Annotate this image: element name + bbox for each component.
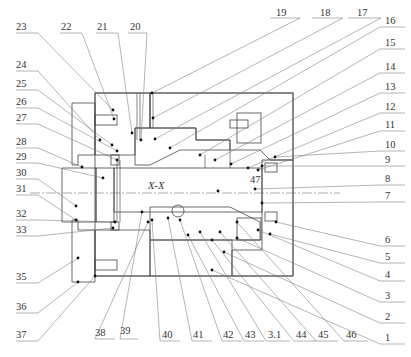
label-14: 14 (385, 61, 396, 72)
label-9: 9 (385, 154, 390, 165)
leader-dot-23 (112, 109, 115, 112)
leader-line-15 (200, 49, 380, 155)
leader-dot-47 (217, 190, 220, 193)
leader-dot-33 (112, 227, 115, 230)
label-28: 28 (16, 136, 27, 147)
leader-line-10 (275, 151, 380, 157)
leader-dot-40 (151, 219, 154, 222)
leader-line-7 (262, 202, 380, 203)
label-46: 46 (346, 329, 357, 340)
label-47: 47 (250, 174, 261, 185)
leader-dot-16 (169, 147, 172, 150)
label-22: 22 (61, 21, 72, 32)
left-flange (62, 103, 248, 282)
leader-dot-41 (167, 217, 170, 220)
leader-dot-25 (111, 144, 114, 147)
leader-line-3 (237, 238, 380, 302)
leader-line-30 (38, 179, 76, 206)
leader-line-42 (180, 220, 222, 341)
leader-line-33 (38, 228, 113, 236)
leader-line-2 (224, 252, 380, 323)
leader-line-12 (248, 113, 380, 168)
screw-right (230, 120, 248, 128)
leader-dot-4 (257, 229, 260, 232)
label-17: 17 (357, 7, 368, 18)
label-15: 15 (385, 37, 396, 48)
leader-dot-21 (131, 132, 134, 135)
label-37: 37 (16, 329, 27, 340)
leader-dot-1 (211, 269, 214, 272)
leader-dot-14 (214, 159, 217, 162)
label-43: 43 (245, 329, 256, 340)
leader-line-37 (38, 276, 95, 341)
leader-dot-15 (199, 154, 202, 157)
leader-dot-37 (94, 275, 97, 278)
housing-outline (95, 93, 293, 276)
section-caption: X-X (147, 180, 165, 191)
leader-dot-35 (77, 257, 80, 260)
label-6: 6 (385, 234, 390, 245)
label-31: 31 (16, 183, 27, 194)
shaft-bore (114, 168, 262, 212)
label-8: 8 (385, 173, 390, 184)
leader-line-6 (276, 222, 380, 246)
leader-dot-12 (247, 167, 250, 170)
leader-dot-24 (99, 139, 102, 142)
housing-lower (150, 240, 232, 276)
leader-line-19 (152, 18, 300, 93)
leader-dot-46 (236, 221, 239, 224)
leader-line-31 (38, 195, 76, 220)
label-20: 20 (130, 21, 141, 32)
leader-dot-5 (269, 233, 272, 236)
label-4: 4 (385, 269, 391, 280)
label-26: 26 (16, 96, 27, 107)
leader-line-36 (38, 282, 78, 313)
label-42: 42 (223, 329, 234, 340)
leader-line-40 (152, 220, 160, 341)
label-39: 39 (120, 325, 131, 336)
leader-dot-27 (116, 159, 119, 162)
label-35: 35 (16, 271, 27, 282)
leader-dot-6 (275, 221, 278, 224)
label-36: 36 (16, 301, 27, 312)
leader-dot-30 (75, 205, 78, 208)
leader-dot-7 (261, 202, 264, 205)
leader-dot-13 (230, 163, 233, 166)
leader-line-44 (212, 240, 294, 341)
label-27: 27 (16, 112, 27, 123)
label-24: 24 (16, 59, 27, 70)
label-38: 38 (95, 327, 106, 338)
leader-line-22 (82, 33, 114, 119)
leader-line-43 (188, 235, 244, 341)
leader-dot-45 (219, 231, 222, 234)
label-44: 44 (296, 329, 307, 340)
leader-dot-38 (147, 221, 150, 224)
label-16: 16 (385, 15, 396, 26)
label-10: 10 (385, 139, 396, 150)
part-labels: 2322212019181716151413121110987654321242… (16, 7, 396, 343)
label-32: 32 (16, 208, 27, 219)
leader-line-41 (168, 218, 192, 341)
leader-line-16 (170, 27, 380, 148)
label-5: 5 (385, 251, 390, 262)
label-33: 33 (16, 224, 27, 235)
leader-dot-3-1 (199, 231, 202, 234)
label-1: 1 (385, 332, 390, 343)
bolt-lower (95, 260, 117, 270)
leader-line-24 (38, 71, 100, 140)
leader-line-17 (155, 18, 381, 139)
leader-line-25 (38, 90, 112, 145)
label-45: 45 (318, 329, 329, 340)
label-11: 11 (385, 119, 395, 130)
leader-line-5 (270, 234, 380, 263)
leader-dot-42 (179, 219, 182, 222)
label-2: 2 (385, 311, 390, 322)
leader-line-29 (38, 163, 103, 178)
packing-lower (265, 212, 277, 221)
leader-dot-3 (236, 237, 239, 240)
leader-dot-2 (223, 251, 226, 254)
leader-dot-36 (77, 281, 80, 284)
leader-line-21 (118, 33, 132, 133)
label-29: 29 (16, 151, 27, 162)
label-3-1: 3.1 (268, 329, 281, 340)
